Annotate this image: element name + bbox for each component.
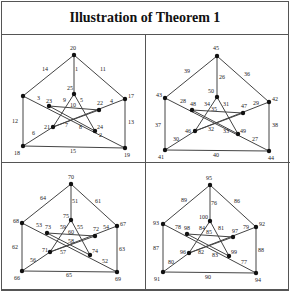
svg-text:70: 70 [68,174,74,180]
svg-text:25: 25 [67,85,73,91]
svg-text:46: 46 [185,128,191,134]
svg-text:90: 90 [205,274,211,280]
svg-text:22: 22 [97,100,103,106]
svg-text:79: 79 [243,224,249,230]
svg-text:2: 2 [99,132,102,138]
svg-text:4: 4 [110,98,113,104]
svg-text:100: 100 [199,214,208,220]
svg-text:97: 97 [232,228,238,234]
svg-text:75: 75 [63,213,69,219]
graph-panel-4: 95 93 92 94 91 100 98 97 99 96 89 86 76 … [146,163,290,290]
svg-text:65: 65 [66,272,72,278]
figure-frame: Illustration of Theorem 1 20 17 19 18 [1,1,289,291]
svg-text:51: 51 [72,198,78,204]
svg-text:62: 62 [12,244,18,250]
svg-text:26: 26 [219,74,225,80]
figure-title: Illustration of Theorem 1 [2,2,288,35]
svg-text:55: 55 [77,224,83,230]
svg-text:18: 18 [14,150,20,156]
svg-text:91: 91 [154,276,160,282]
svg-text:40: 40 [213,152,219,158]
svg-text:17: 17 [128,93,134,99]
graph-drawing: 45 43 42 44 41 50 48 47 49 46 39 36 26 3… [146,35,290,163]
svg-text:60: 60 [68,229,74,235]
svg-text:23: 23 [46,98,52,104]
svg-text:12: 12 [12,118,18,124]
svg-text:59: 59 [60,224,66,230]
svg-text:57: 57 [60,249,66,255]
svg-text:50: 50 [208,88,214,94]
svg-text:52: 52 [102,258,108,264]
svg-text:72: 72 [93,226,99,232]
svg-text:83: 83 [212,252,218,258]
bottom-divider [2,289,288,290]
svg-text:78: 78 [175,224,181,230]
svg-text:29: 29 [253,100,259,106]
svg-text:80: 80 [168,259,174,265]
svg-text:53: 53 [36,222,42,228]
svg-text:20: 20 [70,45,76,51]
svg-text:56: 56 [30,257,36,263]
graph-panel-1: 20 17 19 18 25 23 22 24 21 14 11 1 12 13… [2,35,146,163]
graph-drawing: 95 93 92 94 91 100 98 97 99 96 89 86 76 … [146,163,290,290]
svg-text:71: 71 [42,247,48,253]
svg-text:14: 14 [42,66,48,72]
svg-text:96: 96 [180,249,186,255]
svg-text:76: 76 [211,200,217,206]
svg-text:36: 36 [244,71,250,77]
svg-text:24: 24 [97,124,103,130]
svg-text:19: 19 [124,152,130,158]
svg-text:63: 63 [119,246,125,252]
svg-text:33: 33 [223,128,229,134]
svg-text:61: 61 [95,198,101,204]
svg-text:69: 69 [115,276,121,282]
svg-text:3: 3 [37,95,40,101]
svg-text:28: 28 [180,98,186,104]
svg-text:49: 49 [240,128,246,134]
graph-panel-2: 45 43 42 44 41 50 48 47 49 46 39 36 26 3… [146,35,290,163]
svg-text:86: 86 [234,198,240,204]
svg-text:48: 48 [190,101,196,107]
svg-text:11: 11 [100,66,106,72]
svg-text:67: 67 [120,221,126,227]
svg-text:68: 68 [13,218,19,224]
svg-text:93: 93 [153,220,159,226]
svg-text:89: 89 [181,197,187,203]
svg-text:8: 8 [79,124,82,130]
svg-text:1: 1 [75,66,78,72]
svg-text:81: 81 [218,225,224,231]
svg-text:34: 34 [204,101,210,107]
svg-text:92: 92 [259,221,265,227]
svg-text:95: 95 [206,175,212,181]
svg-text:66: 66 [14,275,20,281]
svg-text:41: 41 [158,154,164,160]
svg-text:99: 99 [231,249,237,255]
svg-text:45: 45 [213,45,219,51]
svg-text:82: 82 [198,249,204,255]
graph-panel-3: 70 68 67 69 66 75 73 72 74 71 64 61 51 6… [2,163,146,290]
graph-drawing: 70 68 67 69 66 75 73 72 74 71 64 61 51 6… [2,163,146,290]
svg-text:5: 5 [80,97,83,103]
svg-text:47: 47 [241,103,247,109]
svg-text:31: 31 [223,101,229,107]
svg-text:54: 54 [103,224,109,230]
svg-text:15: 15 [70,148,76,154]
svg-text:58: 58 [68,238,74,244]
svg-text:84: 84 [199,225,205,231]
svg-text:74: 74 [92,248,98,254]
svg-text:38: 38 [272,122,278,128]
svg-text:30: 30 [173,136,179,142]
svg-text:13: 13 [128,119,134,125]
graph-drawing: 20 17 19 18 25 23 22 24 21 14 11 1 12 13… [2,35,146,163]
svg-text:10: 10 [70,102,76,108]
svg-text:43: 43 [156,92,162,98]
svg-text:85: 85 [206,229,212,235]
svg-text:9: 9 [63,97,66,103]
svg-text:39: 39 [184,68,190,74]
svg-text:87: 87 [153,245,159,251]
svg-text:37: 37 [155,122,161,128]
svg-text:35: 35 [211,106,217,112]
svg-text:27: 27 [252,136,258,142]
svg-text:73: 73 [45,224,51,230]
svg-text:21: 21 [44,124,50,130]
